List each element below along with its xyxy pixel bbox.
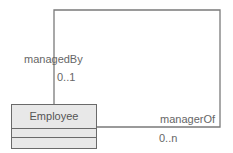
role-managed-by: managedBy — [24, 53, 83, 65]
multiplicity-manager-of: 0..n — [159, 132, 177, 144]
multiplicity-managed-by: 0..1 — [57, 71, 75, 83]
class-employee[interactable]: Employee — [11, 104, 97, 149]
class-attributes-compartment — [12, 129, 96, 138]
class-name: Employee — [12, 105, 96, 129]
class-operations-compartment — [12, 138, 96, 148]
role-manager-of: managerOf — [160, 113, 215, 125]
uml-diagram-canvas: managedBy 0..1 managerOf 0..n Employee — [0, 0, 233, 153]
